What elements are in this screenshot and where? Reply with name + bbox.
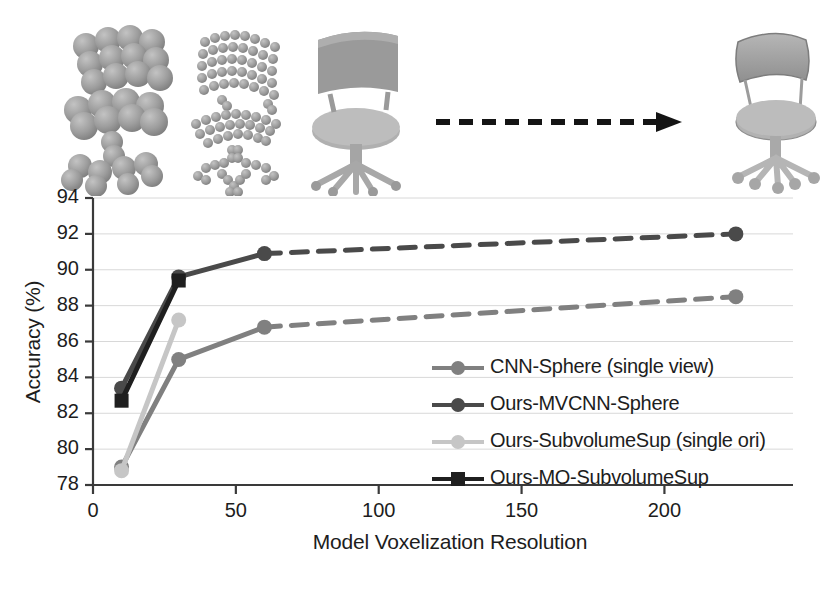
y-tick-label: 78 (33, 472, 79, 495)
legend-circle-marker (451, 435, 465, 449)
legend-item-1[interactable]: Ours-MVCNN-Sphere (432, 385, 822, 422)
data-point-marker (171, 352, 186, 367)
legend-item-0[interactable]: CNN-Sphere (single view) (432, 348, 822, 385)
legend-key-swatch (432, 471, 484, 485)
x-tick-label: 0 (63, 499, 123, 522)
data-point-marker (728, 289, 743, 304)
voxel-chair-coarse (61, 25, 173, 196)
y-axis-ticks (85, 198, 93, 485)
legend-circle-marker (451, 398, 465, 412)
legend-label: CNN-Sphere (single view) (490, 355, 714, 378)
dashed-right-arrow (436, 112, 682, 132)
x-axis-label: Model Voxelization Resolution (140, 530, 760, 554)
y-tick-label: 92 (33, 221, 79, 244)
figure-root: 788082848688909294 050100150200 Accuracy… (0, 0, 830, 589)
data-point-marker (115, 394, 129, 408)
voxelization-illustration (0, 0, 830, 196)
legend-key-swatch (432, 434, 484, 448)
x-tick-label: 100 (349, 499, 409, 522)
legend-label: Ours-SubvolumeSup (single ori) (490, 429, 766, 452)
voxel-chair-fine (311, 32, 401, 196)
legend-key-swatch (432, 360, 484, 374)
data-point-marker (172, 274, 186, 288)
data-point-marker (171, 312, 186, 327)
legend-circle-marker (451, 361, 465, 375)
data-point-marker (728, 226, 743, 241)
x-tick-label: 200 (634, 499, 694, 522)
illustration-svg (0, 0, 830, 196)
data-point-marker (114, 463, 129, 478)
y-tick-label: 80 (33, 436, 79, 459)
x-tick-label: 150 (492, 499, 552, 522)
legend-item-2[interactable]: Ours-SubvolumeSup (single ori) (432, 422, 822, 459)
legend-key-swatch (432, 397, 484, 411)
legend-item-3[interactable]: Ours-MO-SubvolumeSup (432, 459, 822, 496)
voxel-chair-medium (191, 30, 281, 196)
legend-label: Ours-MO-SubvolumeSup (490, 466, 709, 489)
accuracy-vs-resolution-chart: 788082848688909294 050100150200 Accuracy… (0, 190, 830, 589)
y-axis-label: Accuracy (%) (21, 247, 45, 437)
data-point-marker (257, 246, 272, 261)
legend-label: Ours-MVCNN-Sphere (490, 392, 679, 415)
x-tick-label: 50 (206, 499, 266, 522)
mesh-chair-original (732, 33, 820, 194)
y-tick-label: 94 (33, 185, 79, 208)
chart-legend: CNN-Sphere (single view)Ours-MVCNN-Spher… (432, 348, 822, 496)
legend-square-marker (451, 472, 465, 486)
data-point-marker (257, 320, 272, 335)
